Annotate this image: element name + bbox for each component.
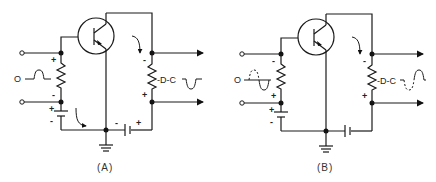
input-waveform-b-dashed xyxy=(249,70,259,80)
sign-label: - xyxy=(363,56,366,66)
output-resistor-a xyxy=(148,53,156,102)
current-flow-arrow xyxy=(76,108,86,126)
output-waveform-b-solid xyxy=(414,70,426,80)
panel-caption-b: (B) xyxy=(317,162,333,173)
input-terminal-top-a xyxy=(20,51,24,55)
sign-label: - xyxy=(52,90,55,100)
panel-caption-a: (A) xyxy=(97,162,113,173)
sign-label: + xyxy=(362,91,367,101)
input-resistor-b xyxy=(277,54,285,103)
sign-label: + xyxy=(271,91,276,101)
transistor-symbol-b xyxy=(298,14,334,131)
input-signal-label: O xyxy=(14,74,21,84)
output-dc-label: -D-C xyxy=(157,75,176,85)
input-waveform-b-solid xyxy=(259,80,269,90)
sign-label: - xyxy=(272,56,275,66)
circuit-panel-b: - + O + - - + -D-C xyxy=(234,14,426,173)
input-waveform-a xyxy=(25,70,51,79)
input-signal-label: O xyxy=(234,75,241,85)
sign-label: - xyxy=(115,118,118,128)
sign-label: - xyxy=(143,55,146,65)
sign-label: + xyxy=(136,118,141,128)
output-dc-label: -D-C xyxy=(377,76,396,86)
sign-label: + xyxy=(51,55,56,65)
ground-icon xyxy=(99,130,113,151)
sign-label: - xyxy=(270,117,273,127)
input-terminal-top-b xyxy=(240,52,244,56)
input-terminal-bottom-b xyxy=(240,101,244,105)
output-waveform-a xyxy=(182,79,202,89)
current-flow-arrow xyxy=(352,37,360,54)
sign-label: + xyxy=(142,90,147,100)
transistor-circuit-diagram: + - O + - - + xyxy=(0,0,436,182)
output-waveform-b-dashed xyxy=(404,80,414,90)
output-resistor-b xyxy=(368,54,376,103)
transistor-symbol-a xyxy=(78,13,114,130)
input-resistor-a xyxy=(57,53,65,102)
ground-icon xyxy=(319,131,333,152)
sign-label: + xyxy=(49,104,54,114)
circuit-panel-a: + - O + - - + xyxy=(14,13,203,173)
current-flow-arrow xyxy=(132,36,140,53)
input-terminal-bottom-a xyxy=(20,100,24,104)
sign-label: - xyxy=(50,116,53,126)
sign-label: + xyxy=(269,105,274,115)
